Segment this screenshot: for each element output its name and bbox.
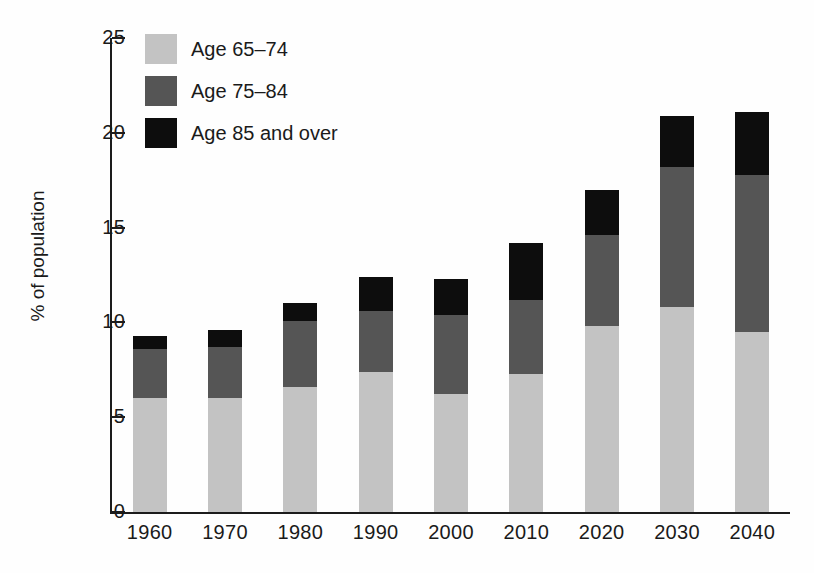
bar-segment[interactable] xyxy=(509,300,543,374)
stacked-bar[interactable] xyxy=(509,243,543,512)
y-axis-title: % of population xyxy=(27,136,49,376)
bar-segment[interactable] xyxy=(434,315,468,395)
bar-segment[interactable] xyxy=(208,398,242,512)
bar-group[interactable] xyxy=(359,38,393,512)
bar-segment[interactable] xyxy=(735,112,769,175)
legend-swatch-icon xyxy=(145,76,177,106)
bar-segment[interactable] xyxy=(133,336,167,349)
stacked-bar-chart-figure: 0510152025 % of population 1960197019801… xyxy=(0,0,814,573)
legend-label: Age 85 and over xyxy=(191,122,338,145)
bar-segment[interactable] xyxy=(509,374,543,512)
bar-segment[interactable] xyxy=(509,243,543,300)
stacked-bar[interactable] xyxy=(585,190,619,512)
stacked-bar[interactable] xyxy=(434,279,468,512)
bar-group[interactable] xyxy=(434,38,468,512)
bar-segment[interactable] xyxy=(434,279,468,315)
bar-segment[interactable] xyxy=(585,326,619,512)
bar-segment[interactable] xyxy=(208,347,242,398)
stacked-bar[interactable] xyxy=(660,116,694,512)
bar-segment[interactable] xyxy=(133,349,167,398)
chart-legend: Age 65–74Age 75–84Age 85 and over xyxy=(145,28,338,154)
bar-segment[interactable] xyxy=(735,332,769,512)
stacked-bar[interactable] xyxy=(735,112,769,512)
bar-group[interactable] xyxy=(509,38,543,512)
legend-label: Age 65–74 xyxy=(191,38,288,61)
bar-segment[interactable] xyxy=(434,394,468,512)
legend-swatch-icon xyxy=(145,118,177,148)
bar-segment[interactable] xyxy=(208,330,242,347)
x-axis-line xyxy=(110,512,790,514)
bar-segment[interactable] xyxy=(283,387,317,512)
stacked-bar[interactable] xyxy=(283,303,317,512)
bar-segment[interactable] xyxy=(660,116,694,167)
stacked-bar[interactable] xyxy=(208,330,242,512)
bar-segment[interactable] xyxy=(133,398,167,512)
bar-segment[interactable] xyxy=(359,311,393,372)
stacked-bar[interactable] xyxy=(359,277,393,512)
legend-label: Age 75–84 xyxy=(191,80,288,103)
bar-segment[interactable] xyxy=(585,190,619,236)
bar-segment[interactable] xyxy=(660,167,694,307)
bar-segment[interactable] xyxy=(585,235,619,326)
bar-segment[interactable] xyxy=(283,321,317,387)
legend-item[interactable]: Age 65–74 xyxy=(145,28,338,70)
bar-group[interactable] xyxy=(735,38,769,512)
bar-segment[interactable] xyxy=(660,307,694,512)
bar-segment[interactable] xyxy=(283,303,317,320)
bar-segment[interactable] xyxy=(359,277,393,311)
bar-segment[interactable] xyxy=(735,175,769,332)
legend-swatch-icon xyxy=(145,34,177,64)
bar-group[interactable] xyxy=(660,38,694,512)
bar-segment[interactable] xyxy=(359,372,393,512)
stacked-bar[interactable] xyxy=(133,336,167,512)
legend-item[interactable]: Age 85 and over xyxy=(145,112,338,154)
x-tick-label-2040: 2040 xyxy=(707,521,797,544)
bar-group[interactable] xyxy=(585,38,619,512)
legend-item[interactable]: Age 75–84 xyxy=(145,70,338,112)
